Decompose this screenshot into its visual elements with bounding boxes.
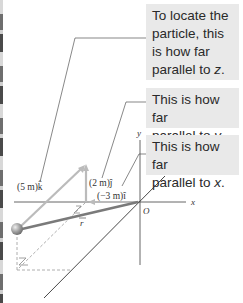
k-component-label: (5 m)k̂ <box>17 180 43 193</box>
callout-z-suffix: . <box>221 62 225 77</box>
x-axis-label: x <box>190 197 195 207</box>
callout-x-line1: This is how far <box>152 138 233 174</box>
callout-z-line4: parallel to z. <box>152 61 233 79</box>
callout-z: To locate the particle, this is how far … <box>146 4 239 80</box>
callout-x-line2: parallel to x. <box>152 174 233 192</box>
leader-line-x <box>122 154 146 186</box>
callout-z-line2: particle, this <box>152 25 233 43</box>
callout-x: This is how far parallel to x. <box>146 135 239 175</box>
callout-y-line1: This is how far <box>152 91 233 127</box>
leader-line-z <box>40 38 146 182</box>
origin-label: O <box>143 206 150 216</box>
right-angle-marker-upper <box>74 206 81 213</box>
i-component-label: (−3 m)î <box>97 191 126 202</box>
j-component-label: (2 m)ĵ <box>89 178 113 189</box>
particle <box>11 223 23 235</box>
callout-x-suffix: . <box>221 175 225 190</box>
leader-line-y <box>102 102 146 178</box>
callout-z-line3: is how far <box>152 43 233 61</box>
vector-r-label: r <box>80 218 84 228</box>
callout-x-prefix: parallel to <box>152 175 214 190</box>
y-axis-label: y <box>136 128 141 138</box>
projection-dashed-diagonal <box>19 202 86 268</box>
callout-y: This is how far parallel to y. <box>146 88 239 128</box>
i-arrowhead <box>88 199 95 205</box>
callout-z-line1: To locate the <box>152 7 233 25</box>
callout-z-prefix: parallel to <box>152 62 214 77</box>
